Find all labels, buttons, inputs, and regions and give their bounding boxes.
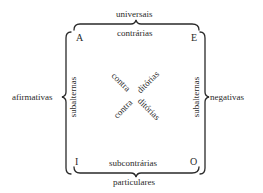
subalternas-right-label: subalternas — [191, 71, 201, 123]
bottom-brace — [74, 167, 199, 177]
negativas-label: negativas — [210, 92, 244, 102]
corner-e: E — [191, 33, 197, 43]
subcontrarias-label: subcontrárias — [109, 158, 157, 168]
right-brace — [200, 32, 209, 174]
corner-i: I — [75, 157, 78, 167]
afirmativas-label: afirmativas — [12, 92, 52, 102]
subalternas-left-label: subalternas — [68, 71, 78, 123]
universais-label: universais — [116, 9, 153, 19]
particulares-label: particulares — [113, 177, 155, 187]
contrarias-label: contrárias — [117, 28, 152, 38]
corner-a: A — [76, 33, 83, 43]
corner-o: O — [190, 157, 197, 167]
